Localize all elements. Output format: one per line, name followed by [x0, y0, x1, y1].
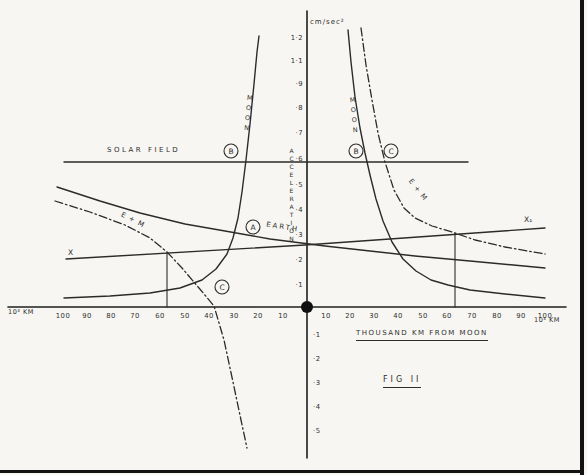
y-tick-pos-0: 1·2 — [291, 34, 303, 42]
curve-e-plus-m-curve-right — [361, 28, 545, 254]
x-line-label-left: X — [68, 248, 73, 257]
circled-marker-label-C-2: C — [219, 283, 224, 292]
circled-marker-label-C-4: C — [388, 147, 393, 156]
circled-marker-label-B-0: B — [228, 147, 233, 156]
x-tick-right-5: 60 — [442, 312, 452, 320]
y-tick-pos-6: ·5 — [296, 181, 304, 189]
x-tick-right-0: 10 — [321, 312, 331, 320]
y-tick-neg-4: ·5 — [313, 427, 321, 435]
x-tick-left-7: 30 — [229, 312, 239, 320]
x-tick-right-2: 30 — [369, 312, 379, 320]
figure-caption: FIG II — [383, 375, 421, 388]
x-tick-right-1: 20 — [345, 312, 355, 320]
y-tick-neg-1: ·2 — [313, 355, 321, 363]
x-tick-left-2: 80 — [106, 312, 116, 320]
x-tick-left-4: 60 — [155, 312, 165, 320]
x-tick-left-9: 10 — [278, 312, 288, 320]
y-tick-neg-2: ·3 — [313, 379, 321, 387]
y-tick-pos-7: ·4 — [296, 206, 304, 214]
y-tick-pos-10: ·1 — [296, 281, 304, 289]
y-tick-pos-5: ·6 — [296, 155, 304, 163]
x-tick-right-3: 40 — [393, 312, 403, 320]
scanned-figure: BACBC1·21·1·9·8·7·6·5·4·3·2·1·1·2·3·4·51… — [0, 0, 587, 475]
circled-marker-label-A-1: A — [250, 223, 256, 232]
x-tick-right-4: 50 — [418, 312, 428, 320]
x-unit-label-right: 10³ KM — [534, 316, 560, 324]
y-tick-neg-3: ·4 — [313, 403, 321, 411]
solar-field-label: SOLAR FIELD — [107, 146, 180, 154]
x-tick-left-8: 20 — [253, 312, 263, 320]
x-tick-left-6: 40 — [204, 312, 214, 320]
x-axis-title: THOUSAND KM FROM MOON — [356, 329, 488, 341]
y-tick-pos-9: ·2 — [296, 256, 304, 264]
x-tick-right-7: 80 — [492, 312, 502, 320]
scan-border-bottom — [0, 470, 584, 473]
y-unit-label: cm/sec² — [310, 18, 345, 26]
scan-border-right — [580, 0, 584, 475]
y-tick-pos-3: ·8 — [296, 104, 304, 112]
x-tick-left-0: 100 — [56, 312, 70, 320]
curve-moon-curve-right — [348, 30, 545, 298]
y-tick-pos-2: ·9 — [296, 80, 304, 88]
x-tick-left-3: 70 — [130, 312, 140, 320]
moon-origin-dot — [301, 301, 313, 313]
x-tick-right-6: 70 — [467, 312, 477, 320]
x-tick-right-8: 90 — [516, 312, 526, 320]
curve-e-plus-m-curve-left — [55, 201, 247, 448]
x-line-label-right: X₁ — [524, 215, 532, 224]
y-tick-pos-1: 1·1 — [291, 57, 303, 65]
x-unit-label-left: 10³ KM — [8, 308, 34, 316]
x-tick-left-5: 50 — [180, 312, 190, 320]
x-tick-left-1: 90 — [82, 312, 92, 320]
circled-marker-label-B-3: B — [353, 147, 358, 156]
curve-moon-curve-left — [64, 36, 259, 298]
y-tick-pos-4: ·7 — [296, 129, 304, 137]
y-tick-neg-0: ·1 — [313, 331, 321, 339]
